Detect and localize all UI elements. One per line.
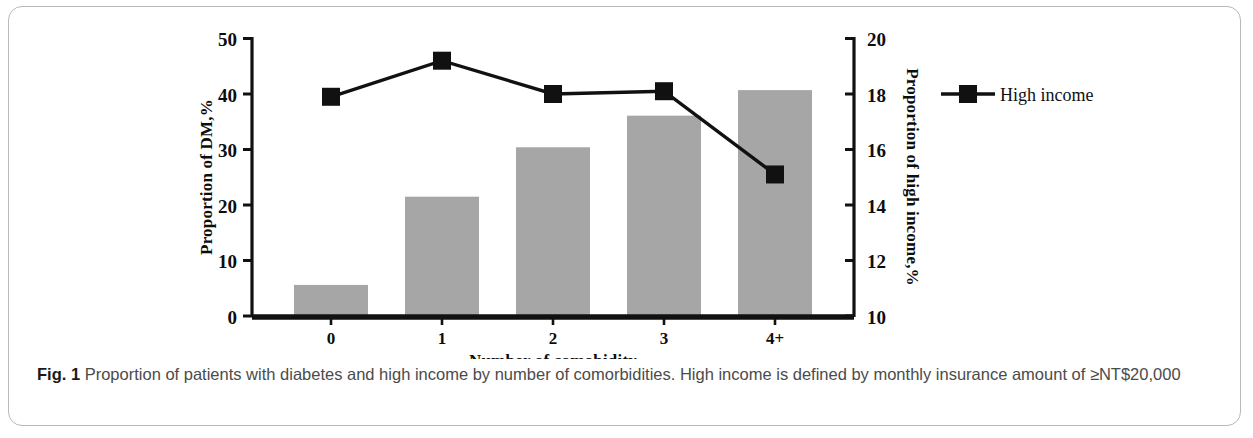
- x-axis: 0 1 2 3 4+ Number of comobidity: [252, 317, 854, 359]
- high-income-marker-3: [655, 82, 673, 100]
- x-axis-label-1: 1: [438, 329, 447, 348]
- right-axis: 20 18 16 14 12 10 Proportion of high inc…: [845, 29, 922, 328]
- bar-series: [294, 90, 812, 316]
- chart-legend: High income: [941, 85, 1093, 105]
- right-axis-tick-label-12: 12: [867, 251, 886, 272]
- chart-plot-area: 50 40 30 20 10 0 Proportion of DM,% 20 1…: [9, 7, 1242, 359]
- left-axis-tick-label-50: 50: [218, 29, 237, 50]
- bar-category-1: [405, 197, 479, 316]
- high-income-marker-0: [322, 88, 340, 106]
- x-axis-title: Number of comobidity: [469, 351, 637, 359]
- left-axis-title: Proportion of DM,%: [197, 99, 216, 255]
- high-income-marker-4plus: [766, 165, 784, 183]
- legend-square-marker-icon: [959, 85, 977, 103]
- high-income-marker-1: [433, 52, 451, 70]
- x-axis-label-4plus: 4+: [766, 329, 784, 348]
- bar-category-2: [516, 147, 590, 316]
- legend-label-high-income: High income: [1000, 85, 1093, 105]
- bar-category-0: [294, 285, 368, 316]
- figure-card: 50 40 30 20 10 0 Proportion of DM,% 20 1…: [8, 6, 1241, 426]
- left-axis-tick-label-20: 20: [218, 196, 237, 217]
- x-axis-label-2: 2: [549, 329, 558, 348]
- bar-category-3: [627, 116, 701, 316]
- left-axis-tick-label-10: 10: [218, 251, 237, 272]
- x-axis-label-3: 3: [660, 329, 669, 348]
- right-axis-tick-label-10: 10: [867, 307, 886, 328]
- chart-svg: 50 40 30 20 10 0 Proportion of DM,% 20 1…: [9, 7, 1242, 359]
- right-axis-tick-label-18: 18: [867, 85, 886, 106]
- left-axis-tick-label-30: 30: [218, 140, 237, 161]
- right-axis-tick-label-16: 16: [867, 140, 886, 161]
- right-axis-title: Proportion of high income,%: [903, 68, 922, 286]
- left-axis: 50 40 30 20 10 0 Proportion of DM,%: [197, 29, 252, 328]
- x-axis-label-0: 0: [327, 329, 336, 348]
- left-axis-tick-label-40: 40: [218, 85, 237, 106]
- bar-category-4plus: [738, 90, 812, 316]
- right-axis-tick-label-14: 14: [867, 196, 887, 217]
- figure-caption: Fig. 1 Proportion of patients with diabe…: [37, 363, 1217, 386]
- high-income-marker-2: [544, 85, 562, 103]
- right-axis-tick-label-20: 20: [867, 29, 886, 50]
- left-axis-tick-label-0: 0: [228, 307, 238, 328]
- figure-caption-label: Fig. 1: [37, 365, 80, 383]
- figure-caption-text: Proportion of patients with diabetes and…: [80, 365, 1181, 383]
